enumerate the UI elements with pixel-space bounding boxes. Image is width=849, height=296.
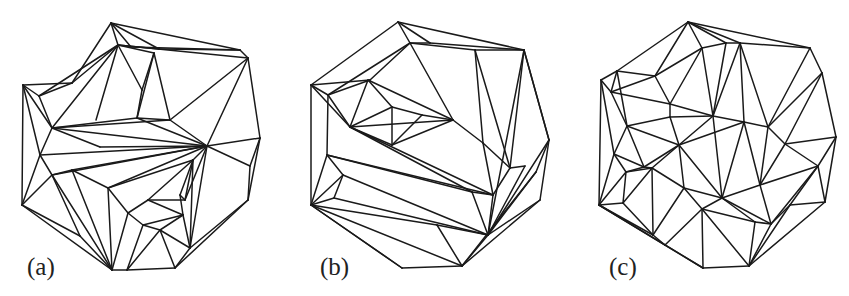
triangulation-edge: [744, 122, 760, 185]
triangulation-edge: [154, 53, 170, 120]
triangulation-edge: [665, 245, 703, 268]
triangulation-edge: [623, 168, 652, 203]
triangulation-edge: [653, 188, 684, 235]
triangulation-edge: [368, 80, 392, 107]
triangulation-panel-c: [599, 22, 836, 268]
triangulation-panel-a: [22, 23, 260, 270]
triangulation-edge: [818, 166, 825, 202]
triangulation-edge: [744, 122, 768, 127]
triangulation-edge: [488, 166, 525, 235]
triangulation-edge: [207, 146, 250, 166]
triangulation-edge: [810, 48, 822, 73]
triangulation-edge: [611, 92, 670, 104]
triangulation-edge: [652, 145, 679, 168]
triangulation-edge: [368, 80, 453, 120]
triangulation-edge: [128, 200, 148, 213]
triangulation-edge: [713, 43, 740, 116]
triangulation-edge: [599, 203, 623, 205]
triangulation-edge: [614, 126, 627, 154]
triangulation-edge: [768, 73, 822, 127]
triangulation-edge: [679, 116, 713, 145]
triangulation-edge: [652, 168, 684, 188]
triangulation-edge: [760, 166, 818, 185]
triangulation-panel-b: [311, 22, 549, 268]
triangulation-edge: [170, 58, 248, 120]
triangulation-edge: [644, 145, 679, 167]
triangulation-edge: [22, 155, 40, 205]
triangulation-edge: [22, 175, 52, 205]
triangulation-edge: [52, 175, 112, 270]
triangulation-edge: [627, 126, 679, 145]
triangulation-edge: [160, 230, 190, 248]
panel-label-a: (a): [27, 254, 55, 279]
triangulation-edge: [143, 225, 160, 230]
triangulation-edge: [655, 22, 688, 76]
panel-label-c: (c): [609, 254, 637, 279]
triangulation-edge: [52, 175, 80, 236]
triangulation-edge: [702, 209, 749, 266]
triangulation-edge: [40, 155, 52, 175]
triangulation-edge: [39, 45, 118, 96]
triangulation-edge: [175, 200, 248, 268]
triangulation-edge: [328, 43, 410, 95]
triangulation-edge: [617, 71, 627, 126]
triangulation-edge: [617, 71, 655, 76]
triangulation-edge: [760, 185, 771, 224]
triangulation-edge: [23, 85, 52, 128]
triangulation-edge: [822, 73, 836, 137]
triangulation-edge: [771, 205, 790, 224]
triangulation-edge: [160, 230, 175, 268]
triangulation-edge: [679, 122, 744, 145]
triangulation-edge: [652, 168, 653, 235]
triangulation-edge: [760, 127, 768, 185]
figure: (a) (b) (c): [0, 0, 849, 296]
triangulation-edge: [392, 107, 422, 115]
triangulation-edge: [722, 185, 760, 198]
triangulation-edge: [488, 200, 540, 235]
triangulation-edge: [670, 117, 679, 145]
triangulation-edge: [402, 266, 462, 268]
triangulation-figure: [0, 0, 849, 296]
triangulation-edge: [599, 172, 626, 205]
triangulation-edge: [540, 140, 549, 200]
triangulation-edge: [599, 80, 601, 205]
triangulation-edge: [23, 83, 72, 85]
triangulation-edge: [790, 202, 825, 205]
triangulation-edge: [40, 128, 52, 155]
triangulation-edge: [749, 202, 825, 266]
triangulation-edge: [713, 116, 744, 122]
triangulation-edge: [493, 168, 510, 195]
triangulation-edge: [327, 95, 328, 155]
triangulation-edge: [768, 48, 810, 127]
panel-label-b: (b): [320, 254, 349, 279]
triangulation-edge: [760, 144, 785, 185]
triangulation-edge: [311, 22, 398, 85]
triangulation-edge: [688, 22, 740, 43]
triangulation-edge: [22, 85, 23, 205]
triangulation-edge: [623, 172, 626, 203]
triangulation-edge: [127, 268, 175, 270]
triangulation-edge: [437, 225, 488, 235]
triangulation-edge: [623, 203, 653, 235]
triangulation-edge: [510, 166, 525, 168]
triangulation-edge: [207, 58, 248, 146]
triangulation-edge: [100, 146, 207, 147]
triangulation-edge: [702, 48, 713, 116]
triangulation-edge: [702, 43, 726, 48]
triangulation-edge: [599, 154, 614, 205]
triangulation-edge: [108, 188, 128, 213]
triangulation-edge: [112, 213, 128, 270]
triangulation-edge: [248, 58, 260, 138]
triangulation-edge: [207, 138, 260, 146]
triangulation-edge: [127, 225, 143, 270]
triangulation-edge: [175, 248, 190, 268]
triangulation-edge: [684, 188, 702, 209]
triangulation-edge: [80, 236, 112, 270]
triangulation-edge: [148, 200, 183, 215]
triangulation-edge: [437, 225, 462, 266]
triangulation-edge: [768, 127, 785, 144]
triangulation-edge: [703, 266, 749, 268]
triangulation-edge: [453, 120, 483, 143]
triangulation-edge: [183, 215, 190, 248]
triangulation-edge: [722, 122, 744, 198]
